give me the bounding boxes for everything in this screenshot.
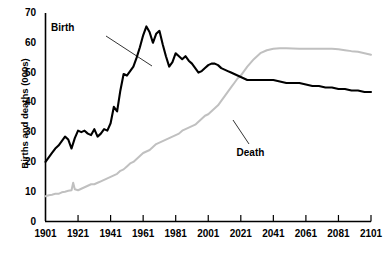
series-line-birth <box>46 26 372 162</box>
data-series-group <box>46 26 372 196</box>
axes-lines <box>45 13 371 222</box>
annotation-leader-lines <box>106 36 249 144</box>
birth-leader-line <box>106 36 152 66</box>
death-leader-line <box>233 120 249 144</box>
x-axis-tick-marks <box>78 215 371 222</box>
series-line-death <box>46 48 372 196</box>
